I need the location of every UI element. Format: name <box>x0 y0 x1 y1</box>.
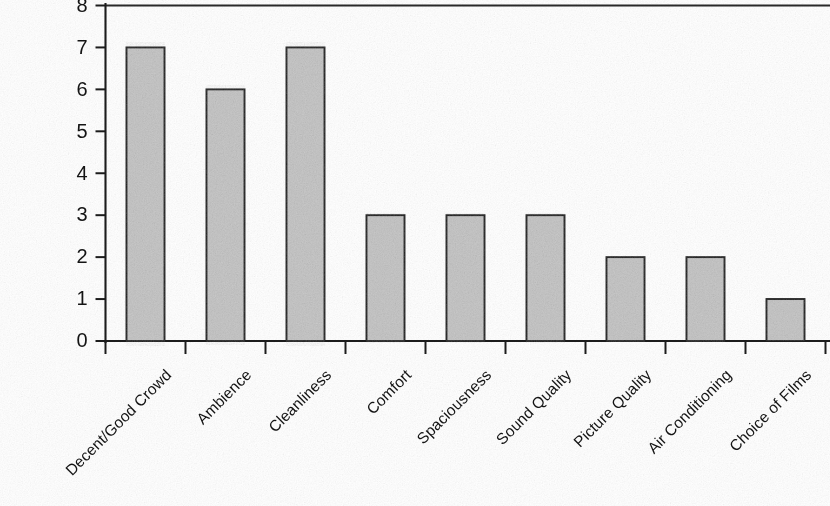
bar <box>287 47 325 341</box>
bar-texture <box>448 216 484 340</box>
y-tick-label: 6 <box>76 78 87 100</box>
bar <box>527 215 565 341</box>
bar-texture <box>288 48 324 340</box>
bar-texture <box>768 300 804 340</box>
chart-background <box>0 0 830 506</box>
bar-chart-canvas: 012345678 Decent/Good CrowdAmbienceClean… <box>0 0 830 506</box>
bar <box>127 47 165 341</box>
y-tick-label: 0 <box>76 329 87 351</box>
y-tick-label: 2 <box>76 245 87 267</box>
y-tick-label: 7 <box>76 36 87 58</box>
bar <box>607 257 645 341</box>
bar <box>447 215 485 341</box>
bar-texture <box>368 216 404 340</box>
bar-texture <box>608 258 644 340</box>
y-tick-label: 3 <box>76 203 87 225</box>
y-tick-label: 5 <box>76 120 87 142</box>
y-tick-label: 8 <box>76 0 87 16</box>
bar-texture <box>528 216 564 340</box>
bar <box>207 89 245 341</box>
bar-texture <box>208 90 244 340</box>
bar <box>367 215 405 341</box>
bar-texture <box>688 258 724 340</box>
y-tick-label: 1 <box>76 287 87 309</box>
bar <box>767 299 805 341</box>
bar-texture <box>128 48 164 340</box>
bar <box>687 257 725 341</box>
bar-chart-figure: 012345678 Decent/Good CrowdAmbienceClean… <box>0 0 830 506</box>
y-tick-label: 4 <box>76 162 87 184</box>
